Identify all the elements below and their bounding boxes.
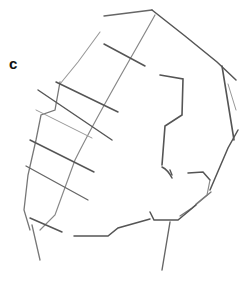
sketch-stroke	[104, 44, 145, 66]
sketch-stroke	[60, 32, 100, 84]
sketch-stroke	[74, 219, 150, 236]
sketch-stroke	[188, 172, 210, 180]
sketch-stroke	[30, 140, 94, 172]
sketch-stroke	[30, 218, 62, 232]
sketch-stroke	[210, 130, 238, 190]
sketch-stroke	[36, 110, 92, 138]
sketch-stroke	[196, 180, 210, 204]
sketch-drawing	[0, 0, 252, 283]
sketch-stroke	[152, 10, 236, 80]
sketch-stroke	[162, 222, 170, 270]
sketch-stroke	[150, 205, 196, 220]
sketch-stroke	[32, 225, 40, 260]
sketch-stroke	[104, 10, 152, 16]
sketch-stroke	[40, 15, 155, 230]
sketch-stroke	[24, 82, 60, 230]
sketch-stroke	[26, 166, 88, 200]
sketch-stroke	[38, 90, 112, 140]
sketch-stroke	[160, 75, 183, 165]
